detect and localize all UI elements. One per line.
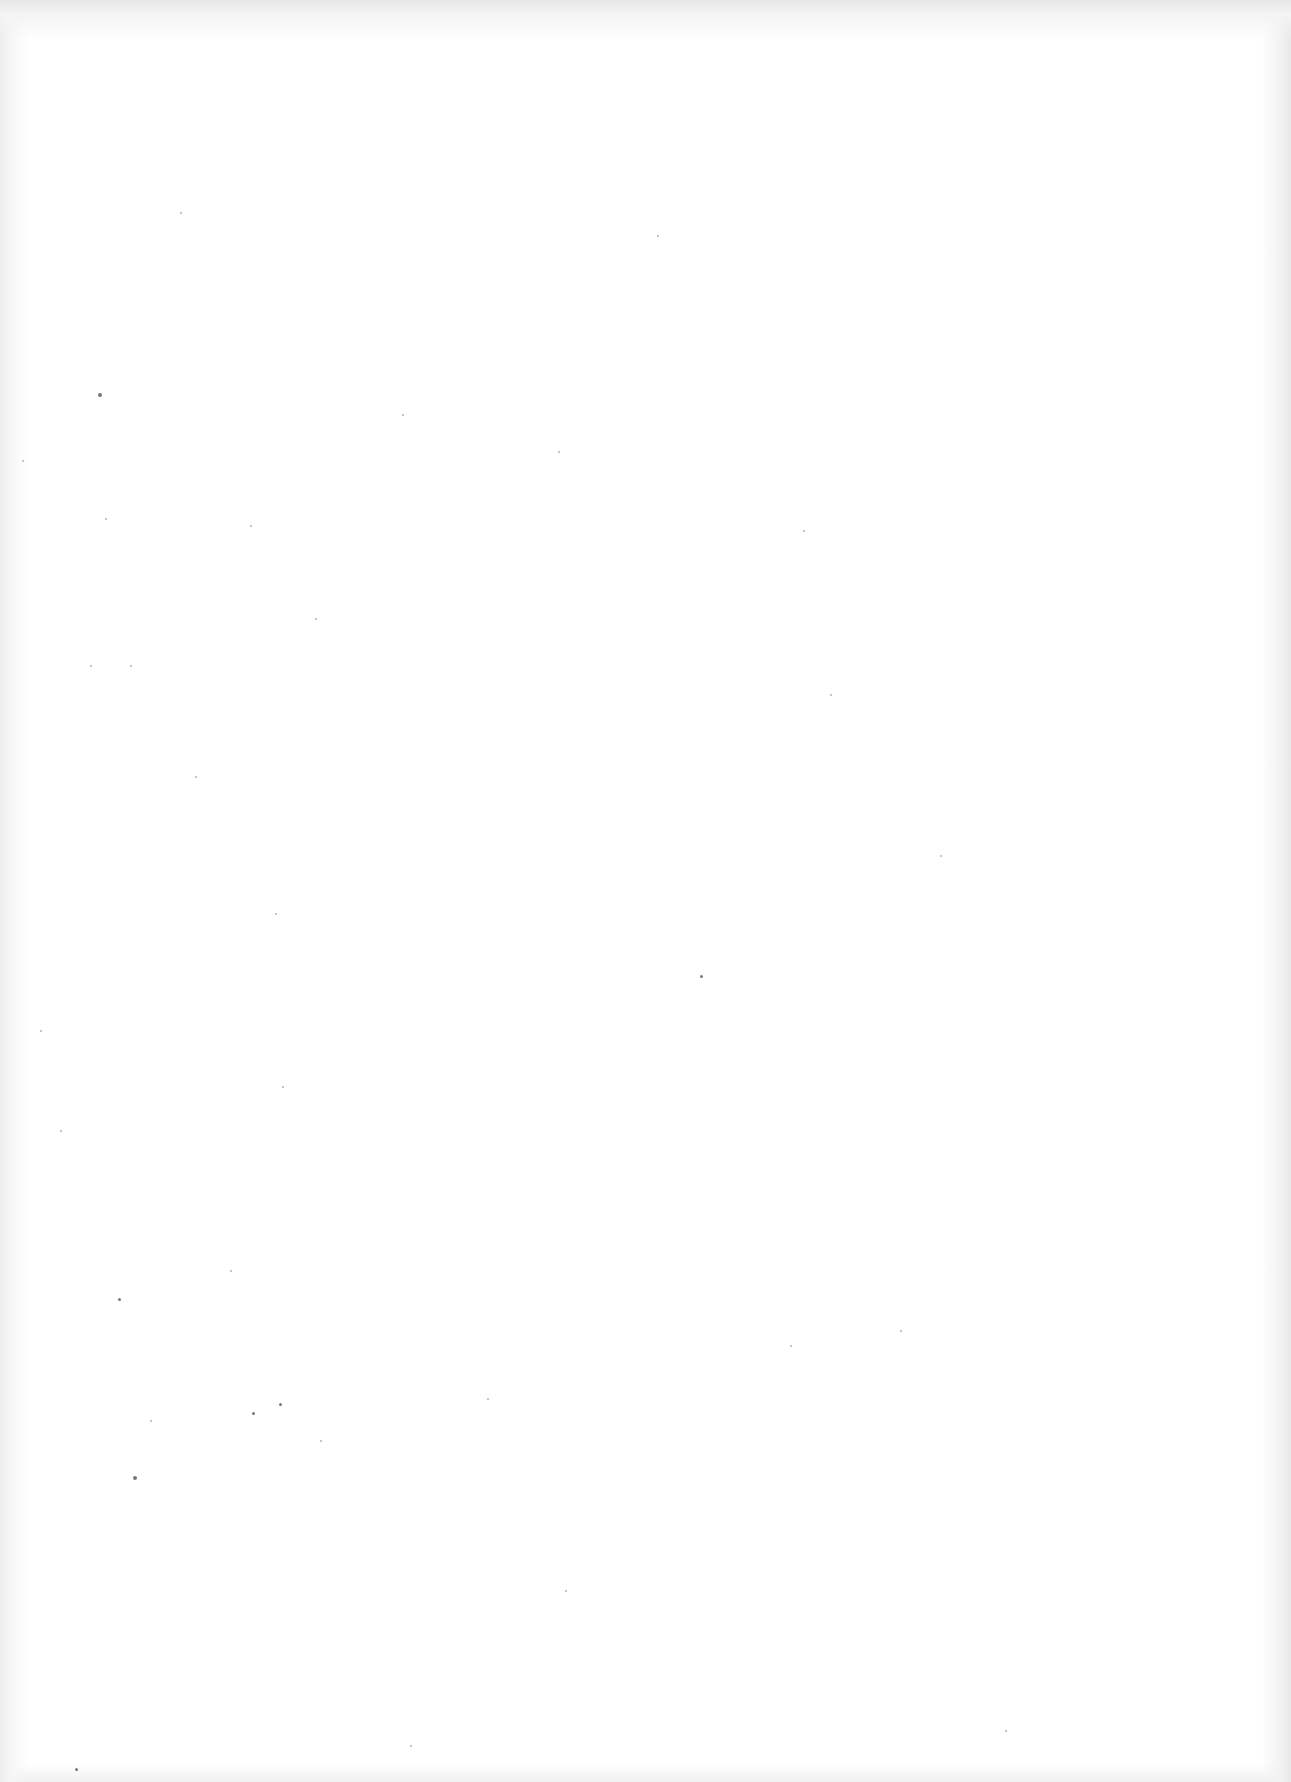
- scan-speck: [803, 530, 805, 532]
- scan-speck: [105, 518, 107, 520]
- scan-speck: [130, 665, 132, 667]
- scan-speck: [230, 1270, 232, 1272]
- scan-speck: [98, 393, 102, 397]
- scan-speck: [402, 414, 404, 416]
- scan-speck: [275, 913, 277, 915]
- scan-speck: [657, 235, 659, 237]
- scan-speck: [830, 694, 832, 696]
- scanned-page: [0, 0, 1291, 1782]
- scan-speck: [195, 776, 197, 778]
- scan-speck: [410, 1745, 412, 1747]
- scan-speck: [40, 1030, 42, 1032]
- scan-speck: [118, 1298, 121, 1301]
- scan-speck: [487, 1398, 489, 1400]
- scan-speck: [133, 1476, 137, 1480]
- scan-speck: [22, 460, 24, 462]
- scan-speck: [60, 1130, 62, 1132]
- scan-speck: [315, 618, 317, 620]
- scan-speck: [75, 1768, 78, 1771]
- scan-speck: [90, 665, 92, 667]
- scan-speck: [940, 855, 942, 857]
- scan-speck: [320, 1440, 322, 1442]
- scan-speck: [150, 1420, 152, 1422]
- scan-speck: [282, 1086, 284, 1088]
- scan-speck: [900, 1330, 902, 1332]
- scan-speck: [1005, 1730, 1007, 1732]
- scan-speck: [558, 451, 560, 453]
- scan-speck: [565, 1590, 567, 1592]
- scan-speck: [180, 212, 182, 214]
- scan-speck: [279, 1403, 282, 1406]
- page-content: [0, 0, 1291, 1782]
- scan-speck: [700, 975, 703, 978]
- scan-speck: [252, 1412, 255, 1415]
- scan-speck: [790, 1345, 792, 1347]
- scan-speck: [250, 525, 252, 527]
